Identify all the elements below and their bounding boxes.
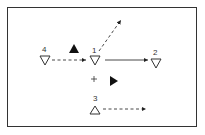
node-3: 3 [90, 94, 100, 114]
diagram-canvas: 4 1 2 3 [0, 0, 205, 135]
edge-1-to-upper-right [99, 20, 121, 51]
triangle-down-icon [151, 59, 161, 68]
node-2-label: 2 [153, 48, 158, 57]
triangle-down-icon [40, 56, 50, 65]
node-1-label: 1 [92, 46, 97, 55]
filled-triangle-up-icon [69, 44, 79, 53]
plus-icon [91, 76, 97, 82]
node-4-label: 4 [42, 45, 47, 54]
triangle-down-icon [90, 56, 100, 65]
node-4: 4 [40, 45, 50, 65]
triangle-up-icon [90, 106, 100, 114]
node-2: 2 [151, 48, 161, 68]
node-3-label: 3 [93, 94, 98, 103]
filled-triangle-right-icon [110, 76, 118, 86]
node-1: 1 [90, 46, 100, 65]
